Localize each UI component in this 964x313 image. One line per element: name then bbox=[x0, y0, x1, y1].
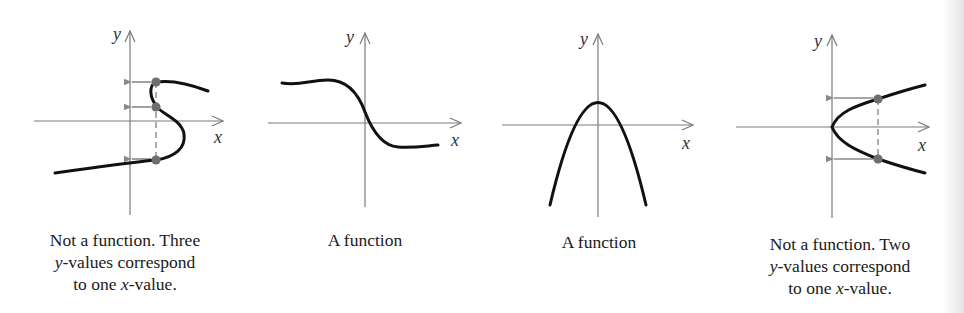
panel-downward-parabola: x y bbox=[502, 29, 693, 217]
axes: x y bbox=[34, 24, 223, 215]
x-axis-label: x bbox=[681, 133, 690, 153]
caption-line: to one x-value. bbox=[20, 273, 230, 295]
caption-line: to one x-value. bbox=[740, 277, 940, 299]
axes: x y bbox=[268, 27, 461, 207]
panel-sideways-parabola: x y bbox=[736, 31, 929, 218]
caption-line: Not a function. Three bbox=[20, 229, 230, 251]
point-marker bbox=[151, 102, 160, 111]
caption-decreasing-curve: A function bbox=[265, 229, 465, 251]
x-axis-label: x bbox=[917, 135, 926, 155]
point-marker bbox=[151, 77, 160, 86]
caption-s-curve: Not a function. Three y-values correspon… bbox=[20, 229, 230, 295]
caption-line: A function bbox=[499, 231, 699, 253]
s-curve-graph bbox=[55, 81, 208, 173]
y-axis-label: y bbox=[578, 29, 588, 49]
point-marker bbox=[151, 155, 160, 164]
page-edge-shadow bbox=[942, 0, 964, 313]
decreasing-curve-graph bbox=[282, 80, 438, 147]
point-marker bbox=[873, 94, 882, 103]
caption-line: Not a function. Two bbox=[740, 233, 940, 255]
x-axis-label: x bbox=[450, 130, 459, 150]
panel-s-curve: x y bbox=[34, 24, 223, 215]
point-marker bbox=[873, 154, 882, 163]
axes: x y bbox=[502, 29, 693, 217]
caption-line: A function bbox=[265, 229, 465, 251]
panel-decreasing-curve: x y bbox=[268, 27, 461, 207]
x-axis-label: x bbox=[213, 127, 222, 147]
y-axis-label: y bbox=[111, 24, 121, 44]
y-axis-label: y bbox=[812, 31, 822, 51]
caption-sideways-parabola: Not a function. Two y-values correspond … bbox=[740, 233, 940, 299]
caption-downward-parabola: A function bbox=[499, 231, 699, 253]
caption-line: y-values correspond bbox=[20, 251, 230, 273]
caption-line: y-values correspond bbox=[740, 255, 940, 277]
y-axis-label: y bbox=[344, 27, 354, 47]
